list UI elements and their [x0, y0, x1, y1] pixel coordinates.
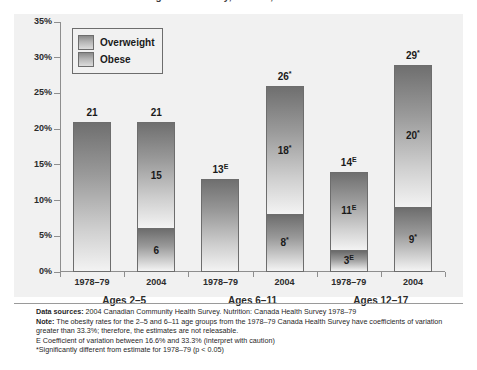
x-tick [253, 272, 254, 277]
segment-value-label: 15 [137, 171, 175, 181]
y-tick-label: 35% [16, 17, 52, 26]
x-group-label: Ages 6–11 [193, 296, 313, 306]
footnote-data-sources-label: Data sources: [36, 307, 84, 316]
legend-item-overweight: Overweight [78, 35, 154, 50]
bar-total-label: 26* [266, 72, 304, 82]
x-year-label: 2004 [255, 278, 315, 287]
segment-value-label: 3E [330, 256, 368, 266]
legend: Overweight Obese [72, 28, 163, 74]
segment-value-label: 11E [330, 206, 368, 216]
y-tick-label: 0% [16, 267, 52, 276]
segment-value-label: 9* [394, 235, 432, 245]
segment-value-label: 18* [266, 146, 304, 156]
y-tick-label: 15% [16, 160, 52, 169]
footnote-e-note: E Coefficient of variation between 16.6%… [36, 336, 456, 346]
chart-panel: 0%5%10%15%20%25%30%35% 216152113E8*18*26… [14, 14, 463, 297]
bar-segment-overweight [73, 122, 111, 272]
y-tick [54, 200, 60, 201]
bar: 3E11E14E [330, 172, 368, 272]
bar-total-label: 14E [330, 158, 368, 168]
x-tick [317, 272, 318, 277]
x-year-label: 1978–79 [62, 278, 122, 287]
footnotes: Data sources: 2004 Canadian Community He… [36, 307, 456, 355]
footnote-divider [14, 303, 463, 304]
x-group-label: Ages 12–17 [321, 296, 441, 306]
legend-label-overweight: Overweight [100, 38, 154, 48]
y-tick-label: 25% [16, 88, 52, 97]
bar: 8*18*26* [266, 86, 304, 272]
x-year-label: 2004 [126, 278, 186, 287]
y-tick [54, 57, 60, 58]
y-tick [54, 93, 60, 94]
y-tick [54, 22, 60, 23]
y-tick [54, 236, 60, 237]
y-tick-label: 5% [16, 231, 52, 240]
footnote-note-text: The obesity rates for the 2–5 and 6–11 a… [36, 317, 442, 336]
x-tick [124, 272, 125, 277]
y-tick [54, 164, 60, 165]
segment-value-label: 8* [266, 238, 304, 248]
x-tick [60, 272, 61, 277]
legend-swatch-obese-icon [78, 52, 94, 67]
chart-page: Overweight and obesity, Canada, 1978–79 … [0, 0, 477, 370]
legend-swatch-overweight-icon [78, 35, 94, 50]
footnote-data-sources: Data sources: 2004 Canadian Community He… [36, 307, 456, 317]
y-tick-label: 20% [16, 124, 52, 133]
footnote-star-note: *Significantly different from estimate f… [36, 345, 456, 355]
y-tick [54, 129, 60, 130]
x-group-label: Ages 2–5 [64, 296, 184, 306]
footnote-data-sources-text: 2004 Canadian Community Health Survey. N… [84, 307, 357, 316]
y-axis-line [60, 22, 61, 272]
x-year-label: 2004 [383, 278, 443, 287]
x-year-label: 1978–79 [319, 278, 379, 287]
x-year-label: 1978–79 [190, 278, 250, 287]
y-tick-label: 30% [16, 53, 52, 62]
x-tick [188, 272, 189, 277]
bar: 9*20*29* [394, 65, 432, 272]
legend-label-obese: Obese [100, 55, 131, 65]
y-tick-label: 10% [16, 196, 52, 205]
x-tick [381, 272, 382, 277]
x-tick [445, 272, 446, 277]
bar-segment-overweight [201, 179, 239, 272]
bar-total-label: 21 [137, 108, 175, 118]
bar-total-label: 13E [201, 165, 239, 175]
footnote-note-label: Note: [36, 317, 54, 326]
bar-total-label: 21 [73, 108, 111, 118]
chart-title: Overweight and obesity, Canada, 1978–79 … [0, 0, 477, 2]
bar: 21 [73, 122, 111, 272]
bar: 61521 [137, 122, 175, 272]
bar: 13E [201, 179, 239, 272]
segment-value-label: 6 [137, 246, 175, 256]
legend-item-obese: Obese [78, 52, 154, 67]
footnote-note: Note: The obesity rates for the 2–5 and … [36, 317, 456, 336]
segment-value-label: 20* [394, 131, 432, 141]
bar-total-label: 29* [394, 51, 432, 61]
